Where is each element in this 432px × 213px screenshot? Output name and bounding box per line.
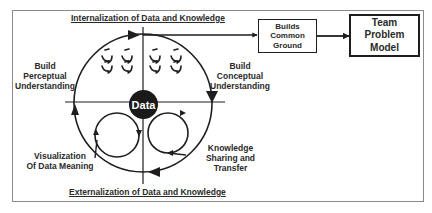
data-node-label: Data xyxy=(132,99,156,111)
label-build-perceptual-understanding: Build Perceptual Understanding xyxy=(14,61,76,91)
externalization-title: Externalization of Data and Knowledge xyxy=(69,187,226,197)
visualization-loop xyxy=(95,113,139,157)
internalization-title: Internalization of Data and Knowledge xyxy=(71,13,225,23)
label-visualization-of-data-meaning: Visualization Of Data Meaning xyxy=(24,151,96,171)
builds-common-ground-box: Builds Common Ground xyxy=(258,19,317,53)
cycle-arrow-bottom-icon xyxy=(148,167,160,177)
label-build-conceptual-understanding: Build Conceptual Understanding xyxy=(209,61,271,91)
knowledge-sharing-loop xyxy=(148,113,188,153)
builds-common-ground-label: Builds Common Ground xyxy=(270,22,305,51)
swirl-pattern-icon xyxy=(102,49,181,73)
team-problem-model-label: Team Problem Model xyxy=(364,17,404,55)
visualization-loop-arrow-up-icon xyxy=(93,129,99,135)
knowledge-loop-arrow-top-icon xyxy=(180,110,186,116)
cycle-arrow-top-icon xyxy=(128,30,140,40)
knowledge-loop-arrow-bottom-icon xyxy=(167,150,173,156)
team-problem-model-box: Team Problem Model xyxy=(349,14,420,57)
cycle-arrow-right-icon xyxy=(206,91,218,103)
cycle-arrow-left-icon xyxy=(71,104,79,115)
data-node: Data xyxy=(129,90,158,119)
visualization-loop-arrow-icon xyxy=(136,130,142,137)
label-knowledge-sharing-transfer: Knowledge Sharing and Transfer xyxy=(203,143,258,173)
